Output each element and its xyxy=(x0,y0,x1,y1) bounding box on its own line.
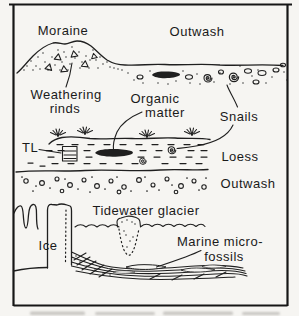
snails-leader-line-upper xyxy=(227,85,238,107)
iceberg-underwater-outline xyxy=(119,229,139,255)
ice-serac-outline xyxy=(14,204,38,229)
label-tl: TL xyxy=(22,140,38,155)
label-organic-matter-line1: Organic xyxy=(130,91,179,106)
outwash-texture-dots-lower xyxy=(22,177,206,192)
label-organic-matter-line2: matter xyxy=(145,105,185,120)
label-loess: Loess xyxy=(221,149,258,164)
loess-top-line xyxy=(49,137,210,144)
ice-cliff-crevasse-dots xyxy=(66,210,67,262)
figure-labels: Moraine Outwash Weathering rinds Organic… xyxy=(22,23,275,264)
snail-icon xyxy=(140,158,147,164)
label-tidewater-glacier: Tidewater glacier xyxy=(92,203,199,218)
organic-matter-blob-loess xyxy=(95,149,133,157)
label-snails: Snails xyxy=(220,109,258,124)
label-moraine: Moraine xyxy=(38,23,88,38)
label-marine-microfossils-line2: fossils xyxy=(204,249,244,264)
snail-icon xyxy=(229,73,238,82)
iceberg-texture-dots xyxy=(122,220,135,247)
iceberg xyxy=(117,216,141,255)
marine-microfossils-leader-line xyxy=(157,251,202,268)
organic-matter-blob-upper xyxy=(152,72,180,79)
label-ice: Ice xyxy=(39,238,58,253)
moraine-hill-outline xyxy=(17,41,283,73)
label-marine-microfossils-line1: Marine micro- xyxy=(177,234,263,249)
caption-artifact xyxy=(30,312,280,316)
label-weathering-rinds-line1: Weathering xyxy=(30,87,101,102)
label-weathering-rinds-line2: rinds xyxy=(50,101,81,116)
ice-cliff-block xyxy=(48,204,72,268)
ground-line xyxy=(14,268,48,272)
weathering-rinds-leader-line xyxy=(66,63,72,87)
grass-tuft-icons xyxy=(51,127,200,137)
outwash-pebble-circles xyxy=(24,177,206,194)
snail-icons-loess xyxy=(140,147,176,165)
label-outwash-top: Outwash xyxy=(170,24,225,39)
moraine-hill xyxy=(17,41,283,87)
snail-icon xyxy=(204,75,212,82)
label-outwash-lower: Outwash xyxy=(221,176,276,191)
loess-bottom-line xyxy=(16,170,208,173)
geologic-cross-section-figure: Moraine Outwash Weathering rinds Organic… xyxy=(0,0,299,316)
lower-outwash-band xyxy=(22,177,206,194)
tl-sample-box xyxy=(63,147,78,162)
loess-layer xyxy=(16,112,233,172)
snail-icon xyxy=(168,147,176,154)
